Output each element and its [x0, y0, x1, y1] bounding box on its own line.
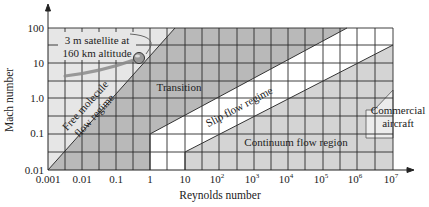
x-tick: 103 [245, 172, 260, 185]
x-tick: 106 [348, 172, 363, 185]
y-axis-arrow-icon [46, 4, 51, 11]
y-axis-title: Mach number [3, 68, 15, 132]
satellite-label-line2: 160 km altitude [62, 47, 131, 59]
x-tick: 1 [147, 173, 153, 185]
commercial-aircraft-label-1: Commercial [371, 104, 425, 116]
x-tick: 107 [384, 172, 399, 185]
x-tick: 10 [180, 173, 192, 185]
satellite-icon [134, 53, 145, 64]
flow-regime-diagram: 100 10 1.0 0.1 0.01 0.001 0.01 0.1 1 10 … [0, 0, 429, 207]
x-tick: 105 [314, 172, 329, 185]
commercial-aircraft-label-2: aircraft [382, 117, 414, 129]
y-tick: 100 [28, 22, 45, 34]
y-tick: 1.0 [30, 92, 44, 104]
y-tick: 0.1 [30, 127, 44, 139]
transition-label: Transition [157, 81, 202, 93]
x-tick: 104 [279, 172, 294, 185]
x-tick: 0.01 [72, 173, 91, 185]
x-tick-labels: 0.001 0.01 0.1 1 10 102 103 104 105 106 … [36, 172, 399, 185]
x-axis-arrow-icon [407, 168, 414, 173]
x-axis-title: Reynolds number [179, 189, 261, 202]
continuum-label: Continuum flow region [244, 136, 348, 148]
x-tick: 102 [210, 172, 225, 185]
satellite-label-line1: 3 m satellite at [65, 34, 129, 46]
y-tick-labels: 100 10 1.0 0.1 0.01 [25, 22, 45, 176]
x-tick: 0.001 [36, 173, 61, 185]
y-tick: 10 [33, 57, 45, 69]
x-tick: 0.1 [109, 173, 123, 185]
